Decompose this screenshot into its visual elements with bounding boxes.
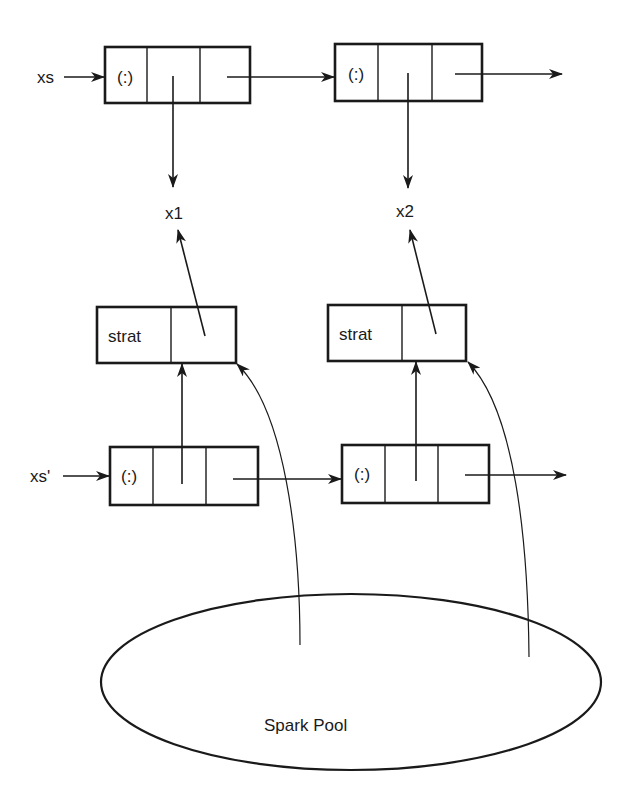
cons-tag: (:) (354, 465, 370, 484)
spark-arrow-to-strat-2 (468, 362, 529, 657)
value-x2: x2 (396, 202, 414, 221)
diagram-canvas: xs (:) (:) x1 x2 strat strat (0, 0, 643, 801)
strat-arrow-to-x2 (410, 230, 436, 334)
strat-arrow-to-x1 (178, 230, 205, 336)
strat-node-1[interactable]: strat (97, 307, 236, 363)
xs-label: xs (37, 68, 54, 87)
cons-tag: (:) (348, 65, 364, 84)
xs-cons-cell-1[interactable]: (:) (105, 47, 250, 103)
xs-prime-label: xs' (30, 467, 50, 486)
strat-label: strat (339, 325, 372, 344)
spark-pool-label: Spark Pool (264, 716, 347, 735)
xs-prime-cons-cell-1[interactable]: (:) (110, 447, 258, 505)
cons-tag: (:) (121, 467, 137, 486)
cons-tag: (:) (117, 68, 133, 87)
strat-label: strat (108, 327, 141, 346)
strat-node-2[interactable]: strat (328, 305, 466, 361)
value-x1: x1 (165, 204, 183, 223)
xs-list: xs (:) (:) (37, 44, 562, 188)
xs-prime-list: xs' (:) (:) (30, 362, 566, 505)
spark-pool[interactable]: Spark Pool (101, 594, 601, 770)
